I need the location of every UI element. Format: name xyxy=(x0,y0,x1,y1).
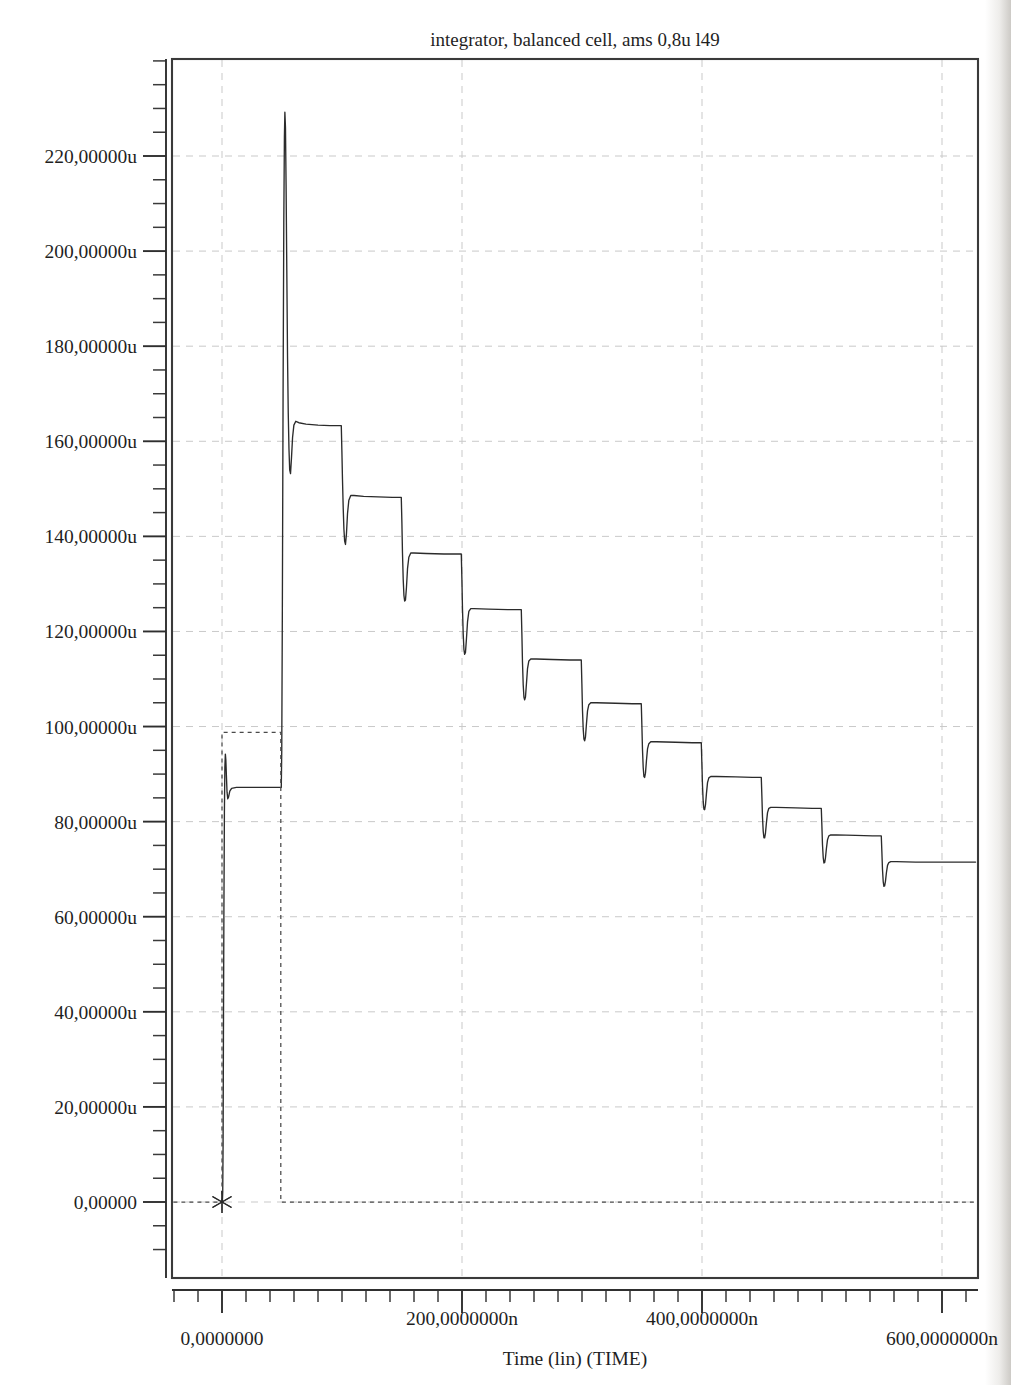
y-tick-label: 180,00000u xyxy=(44,336,137,357)
y-tick-label: 40,00000u xyxy=(54,1002,137,1023)
x-tick-label: 600,0000000n xyxy=(886,1328,998,1349)
x-tick-label: 200,0000000n xyxy=(406,1308,518,1329)
y-tick-label: 140,00000u xyxy=(44,526,137,547)
y-tick-label: 0,00000 xyxy=(74,1192,137,1213)
plot-frame xyxy=(172,59,978,1278)
x-axis-title: Time (lin) (TIME) xyxy=(503,1348,647,1370)
y-tick-label: 160,00000u xyxy=(44,431,137,452)
data-series xyxy=(173,112,975,1202)
grid-lines xyxy=(173,60,977,1277)
y-tick-label: 100,00000u xyxy=(44,717,137,738)
trace-integrator-output xyxy=(222,112,976,1202)
x-tick-label: 400,0000000n xyxy=(646,1308,758,1329)
y-tick-label: 220,00000u xyxy=(44,146,137,167)
y-tick-label: 120,00000u xyxy=(44,621,137,642)
x-axis-ticks xyxy=(172,1290,978,1313)
waveform-plot-svg: integrator, balanced cell, ams 0,8u l49 … xyxy=(0,0,1011,1385)
y-axis-tick-labels: 0,0000020,00000u40,00000u60,00000u80,000… xyxy=(44,146,137,1213)
y-tick-label: 200,00000u xyxy=(44,241,137,262)
waveform-plot-panel: integrator, balanced cell, ams 0,8u l49 … xyxy=(0,0,1011,1385)
trace-reference-pulse xyxy=(173,732,975,1202)
y-axis-ticks xyxy=(143,59,166,1278)
y-tick-label: 80,00000u xyxy=(54,812,137,833)
chart-title: integrator, balanced cell, ams 0,8u l49 xyxy=(430,29,719,50)
x-tick-label: 0,0000000 xyxy=(181,1328,264,1349)
y-tick-label: 60,00000u xyxy=(54,907,137,928)
x-axis-tick-labels: 0,0000000200,0000000n400,0000000n600,000… xyxy=(181,1308,999,1349)
y-tick-label: 20,00000u xyxy=(54,1097,137,1118)
